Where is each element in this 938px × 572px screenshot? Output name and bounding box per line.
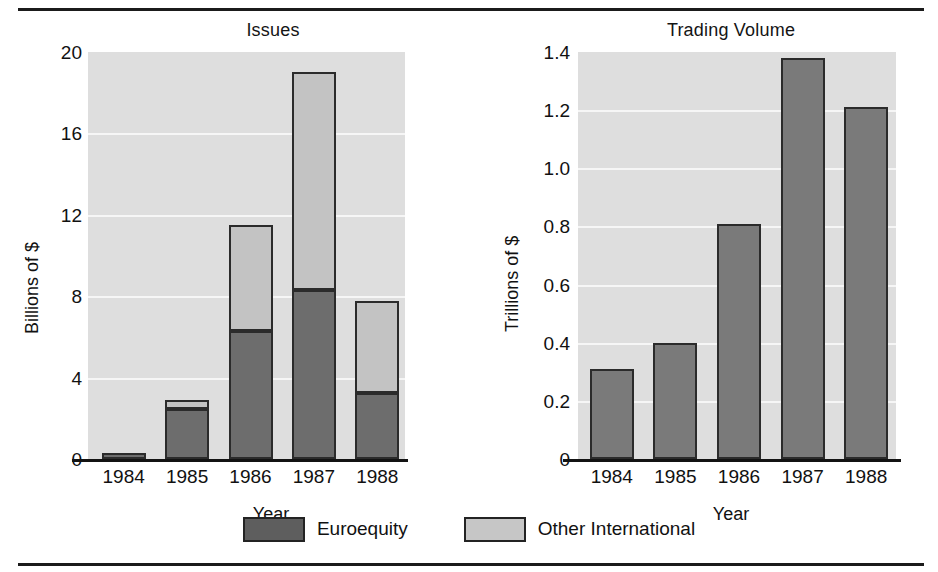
x-tick-label: 1988 [834, 466, 898, 488]
bottom-divider-rule [18, 563, 924, 566]
charts-container: Issues 201612840 Billions of $ 198419851… [0, 14, 938, 494]
bar-segment[interactable] [165, 400, 209, 409]
y-tick-label: 1.0 [544, 159, 570, 178]
x-tick-label: 1987 [771, 466, 835, 488]
bar-segment[interactable] [717, 224, 761, 459]
bar-segment[interactable] [165, 409, 209, 459]
plot-area-issues [88, 52, 405, 459]
x-tick-label: 1986 [219, 466, 282, 488]
legend-swatch [243, 517, 305, 542]
y-tick-label: 16 [61, 124, 82, 143]
legend-item[interactable]: Other International [464, 517, 695, 542]
legend-item[interactable]: Euroequity [243, 517, 408, 542]
bar-group[interactable] [717, 224, 761, 459]
x-tick-label: 1988 [346, 466, 409, 488]
y-tick-label: 0.6 [544, 276, 570, 295]
bar-group[interactable] [292, 72, 336, 459]
x-tick-label: 1987 [282, 466, 345, 488]
figure-page: Issues 201612840 Billions of $ 198419851… [0, 0, 938, 572]
x-tick-label: 1985 [155, 466, 218, 488]
y-tick-label: 8 [71, 287, 82, 306]
y-axis-label-trading-volume: Trillions of $ [502, 236, 523, 332]
y-tick-label: 1.4 [544, 43, 570, 62]
bar-segment[interactable] [781, 58, 825, 459]
bar-group[interactable] [781, 58, 825, 459]
bar-segment[interactable] [355, 301, 399, 393]
bar-segment[interactable] [590, 369, 634, 459]
y-tick-label: 4 [71, 369, 82, 388]
bar-group[interactable] [229, 225, 273, 459]
bar-group[interactable] [355, 301, 399, 459]
chart-legend: EuroequityOther International [0, 514, 938, 544]
bars-issues [88, 52, 405, 459]
x-tick-label: 1986 [707, 466, 771, 488]
bars-trading-volume [578, 52, 896, 459]
x-tick-label: 1985 [644, 466, 708, 488]
bar-segment[interactable] [229, 331, 273, 459]
y-tick-label: 0.2 [544, 392, 570, 411]
bar-segment[interactable] [292, 290, 336, 459]
legend-label: Other International [538, 518, 695, 540]
x-axis-ticks-issues: 19841985198619871988 [88, 466, 405, 492]
x-tick-label: 1984 [580, 466, 644, 488]
bar-group[interactable] [653, 343, 697, 459]
bar-group[interactable] [590, 369, 634, 459]
y-tick-label: 0.8 [544, 217, 570, 236]
y-tick-label: 20 [61, 43, 82, 62]
x-axis-line-trading-volume [563, 459, 901, 462]
bar-group[interactable] [165, 400, 209, 459]
x-axis-ticks-trading-volume: 19841985198619871988 [578, 466, 896, 492]
plot-area-trading-volume [578, 52, 896, 459]
y-axis-label-issues: Billions of $ [22, 242, 43, 334]
legend-swatch [464, 517, 526, 542]
bar-segment[interactable] [229, 225, 273, 331]
y-tick-label: 12 [61, 206, 82, 225]
legend-label: Euroequity [317, 518, 408, 540]
x-tick-label: 1984 [92, 466, 155, 488]
bar-segment[interactable] [355, 393, 399, 459]
y-tick-label: 1.2 [544, 101, 570, 120]
bar-group[interactable] [844, 107, 888, 459]
x-axis-line-issues [72, 459, 408, 462]
y-tick-label: 0.4 [544, 334, 570, 353]
bar-segment[interactable] [653, 343, 697, 459]
chart-panel-trading-volume: Trading Volume 1.41.21.00.80.60.40.20 Tr… [468, 14, 938, 494]
bar-segment[interactable] [292, 72, 336, 290]
bar-segment[interactable] [844, 107, 888, 459]
chart-panel-issues: Issues 201612840 Billions of $ 198419851… [0, 14, 470, 494]
top-divider-rule [18, 8, 924, 11]
